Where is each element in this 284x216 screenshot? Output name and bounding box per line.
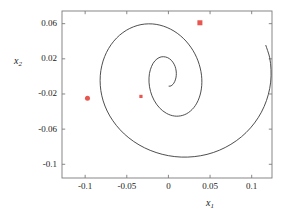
y-axis-title: x2 — [14, 56, 22, 68]
y-tick-label: 0.06 — [20, 19, 57, 28]
x-axis-title: x1 — [206, 198, 214, 210]
marker-inner — [139, 95, 142, 98]
marker-upper-right — [197, 20, 202, 25]
x-tick-label: 0.1 — [232, 182, 272, 191]
x-tick-label: -0.1 — [65, 182, 105, 191]
data-series-group — [100, 24, 271, 157]
marker-left — [85, 96, 90, 101]
y-axis-title-sub: 2 — [18, 60, 22, 68]
y-tick-label: -0.1 — [20, 160, 57, 169]
axes-frame — [62, 11, 272, 178]
y-tick-label: -0.06 — [20, 125, 57, 134]
data-markers-group — [85, 20, 202, 100]
tick-marks — [62, 11, 272, 178]
x-tick-label: 0.05 — [190, 182, 230, 191]
x-tick-label: 0 — [148, 182, 188, 191]
x-tick-label: -0.05 — [107, 182, 147, 191]
y-tick-label: -0.02 — [20, 89, 57, 98]
figure-container: 0.060.02-0.02-0.06-0.1-0.1-0.0500.050.1 … — [0, 0, 284, 216]
trajectory-line — [100, 24, 271, 157]
x-axis-title-sub: 1 — [210, 202, 214, 210]
y-tick-label: 0.02 — [20, 54, 57, 63]
